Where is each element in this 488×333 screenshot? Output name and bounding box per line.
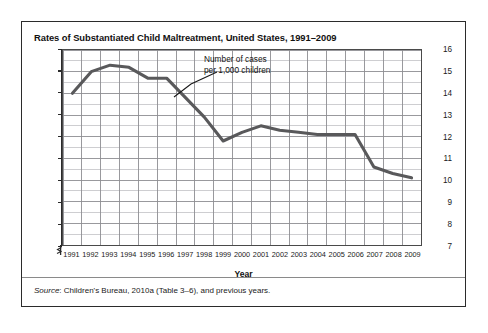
y-axis-tick-label: 14 [443, 88, 452, 97]
x-axis-tick-label: 1991 [63, 250, 79, 259]
plot-area [62, 49, 422, 246]
y-axis-break-icon [48, 244, 62, 257]
x-axis-tick-label: 2006 [348, 250, 364, 259]
y-axis-tick-label: 15 [443, 66, 452, 75]
y-axis [51, 49, 62, 246]
footer-divider [22, 277, 465, 278]
chart-title: Rates of Substantiated Child Maltreatmen… [34, 32, 336, 43]
x-axis-tick-label: 1994 [120, 250, 136, 259]
x-axis-tick-label: 2000 [234, 250, 250, 259]
source-text: : Children's Bureau, 2010a (Table 3–6), … [59, 286, 270, 295]
x-axis-tick-label: 2007 [367, 250, 383, 259]
source-label: Source [34, 286, 59, 295]
x-axis-tick-label: 1995 [139, 250, 155, 259]
x-axis-tick-label: 1999 [215, 250, 231, 259]
x-axis-tick-label: 2009 [404, 250, 420, 259]
y-axis-tick-label: 13 [443, 110, 452, 119]
y-axis-tick-label: 7 [447, 242, 452, 251]
x-axis-tick-label: 2005 [329, 250, 345, 259]
x-axis-tick-label: 2008 [385, 250, 401, 259]
y-axis-tick-label: 16 [443, 45, 452, 54]
x-axis-tick-label: 2004 [310, 250, 326, 259]
x-axis-tick-label: 1996 [158, 250, 174, 259]
y-axis-tick-label: 9 [447, 198, 452, 207]
data-line-series [63, 50, 421, 245]
x-axis-tick-label: 2003 [291, 250, 307, 259]
x-axis-tick-label: 2001 [253, 250, 269, 259]
y-axis-tick-label: 11 [444, 154, 453, 163]
annotation-line-2: per 1,000 children [204, 65, 270, 76]
figure-container: Rates of Substantiated Child Maltreatmen… [21, 21, 466, 307]
x-axis-tick-label: 1993 [101, 250, 117, 259]
x-axis-tick-label: 1998 [196, 250, 212, 259]
source-note: Source: Children's Bureau, 2010a (Table … [34, 286, 270, 295]
chart-annotation: Number of cases per 1,000 children [204, 54, 270, 75]
x-axis-tick-label: 2002 [272, 250, 288, 259]
x-axis-tick-label: 1997 [177, 250, 193, 259]
y-axis-tick-label: 12 [443, 132, 452, 141]
annotation-line-1: Number of cases [204, 54, 270, 65]
y-axis-tick-label: 10 [443, 176, 452, 185]
y-axis-tick-label: 8 [447, 220, 452, 229]
x-axis-tick-label: 1992 [82, 250, 98, 259]
